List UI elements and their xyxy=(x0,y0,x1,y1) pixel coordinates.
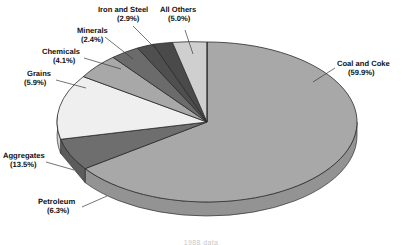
label-all-others-name: All Others xyxy=(160,5,196,14)
label-petroleum-name: Petroleum xyxy=(38,197,75,206)
label-grains-name: Grains xyxy=(27,69,51,78)
label-coal-and-coke-pct: (59.9%) xyxy=(348,68,375,77)
label-chemicals-pct: (4.1%) xyxy=(53,56,76,65)
label-chemicals-name: Chemicals xyxy=(42,47,80,56)
label-grains-pct: (5.9%) xyxy=(24,78,47,87)
label-coal-and-coke-name: Coal and Coke xyxy=(337,59,390,68)
pie-chart-figure: Coal and Coke (59.9%) All Others (5.0%) … xyxy=(0,0,402,245)
label-iron-and-steel-name: Iron and Steel xyxy=(98,5,148,14)
label-petroleum-pct: (6.3%) xyxy=(47,206,70,215)
label-all-others-pct: (5.0%) xyxy=(168,14,191,23)
pie-chart-svg: Coal and Coke (59.9%) All Others (5.0%) … xyxy=(0,0,402,245)
leader-line-petroleum xyxy=(82,196,107,207)
label-minerals-name: Minerals xyxy=(77,26,108,35)
pie-top-face xyxy=(57,42,357,202)
label-iron-and-steel-pct: (2.9%) xyxy=(117,14,140,23)
figure-caption: 1988 data xyxy=(0,237,402,245)
label-aggregates-name: Aggregates xyxy=(3,151,45,160)
label-minerals-pct: (2.4%) xyxy=(81,35,104,44)
label-aggregates-pct: (13.5%) xyxy=(10,160,37,169)
